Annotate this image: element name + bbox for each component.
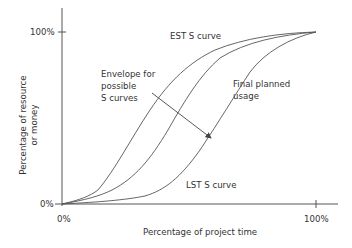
x-tick-100-label: 100% (304, 214, 329, 224)
envelope-arrow (152, 93, 211, 138)
est-curve-label: EST S curve (170, 31, 221, 41)
y-tick-0-label: 0% (40, 199, 54, 209)
envelope-label-line3: S curves (101, 93, 138, 103)
final-usage-label-line2: usage (233, 91, 259, 101)
y-axis-title-line2: or money (29, 105, 39, 146)
lst-s-curve (62, 32, 316, 204)
x-axis-title: Percentage of project time (143, 227, 257, 237)
y-tick-100-label: 100% (30, 27, 55, 37)
final-usage-label-line1: Final planned (233, 79, 290, 89)
y-axis-title-line1: Percentage of resource (18, 75, 28, 174)
x-tick-0-label: 0% (57, 214, 71, 224)
envelope-label-line1: Envelope for (101, 69, 156, 79)
s-curve-diagram: 100% 0% 0% 100% Percentage of project ti… (0, 0, 352, 248)
envelope-label-line2: possible (101, 81, 136, 91)
lst-curve-label: LST S curve (186, 180, 237, 190)
final-planned-usage-curve (62, 32, 316, 204)
est-s-curve (62, 32, 316, 204)
